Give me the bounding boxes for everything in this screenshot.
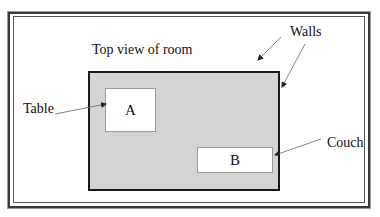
couch-letter: B — [230, 152, 240, 169]
couch-b: B — [197, 147, 273, 173]
couch-label: Couch — [327, 135, 364, 151]
table-letter: A — [125, 102, 136, 119]
table-a: A — [105, 88, 156, 132]
table-label: Table — [23, 101, 54, 117]
walls-label: Walls — [290, 24, 322, 40]
diagram-title: Top view of room — [92, 42, 193, 58]
